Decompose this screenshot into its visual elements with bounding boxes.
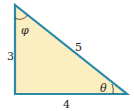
side-label-hypotenuse: 5 <box>75 41 82 54</box>
triangle-diagram: 3 5 4 φ θ <box>0 0 134 111</box>
right-triangle <box>15 5 127 94</box>
side-label-vertical: 3 <box>7 50 14 63</box>
side-label-horizontal: 4 <box>63 98 70 111</box>
angle-label-theta: θ <box>100 82 107 95</box>
angle-label-phi: φ <box>21 24 29 37</box>
